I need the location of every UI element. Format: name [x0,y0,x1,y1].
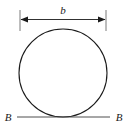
arrowhead-left-icon [21,17,29,23]
axis-label-right-B: B [116,111,123,123]
cross-section-circle [19,29,107,117]
axis-label-left-B: B [5,111,12,123]
arrowhead-right-icon [98,17,106,23]
figure-container: b B B [0,0,127,128]
dimension-label-b: b [60,4,66,16]
diagram-canvas: b B B [0,0,127,128]
